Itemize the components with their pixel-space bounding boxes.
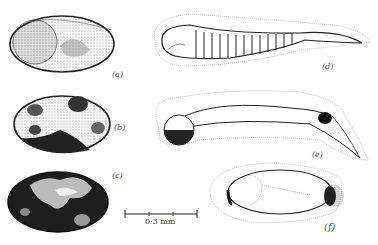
egg-b-drawing xyxy=(14,96,110,153)
panel-label-b: (b) xyxy=(114,123,125,132)
panel-label-a: (a) xyxy=(112,70,123,79)
scale-bar-label: 0·3 mm xyxy=(145,217,175,226)
egg-f-drawing xyxy=(210,163,344,223)
panel-label-c: (c) xyxy=(112,171,123,180)
egg-a-drawing xyxy=(10,16,114,72)
embryo-e-drawing xyxy=(156,91,368,160)
embryo-d-drawing xyxy=(154,14,370,66)
panel-label-e: (e) xyxy=(312,150,323,159)
panel-label-d: (d) xyxy=(322,62,333,71)
panel-label-f: (f) xyxy=(324,221,336,232)
egg-c-drawing xyxy=(8,172,108,232)
figure-drawing xyxy=(0,0,378,245)
